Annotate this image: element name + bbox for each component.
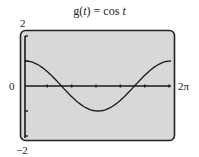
graph-screen: [0, 0, 199, 157]
